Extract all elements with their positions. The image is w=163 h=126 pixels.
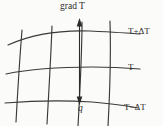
flux-line-2 <box>47 26 52 124</box>
isotherm-middle-curve <box>6 67 140 74</box>
isotherm-lower-label-text: T−ΔT <box>124 102 146 112</box>
isotherm-lower-curve <box>5 101 138 108</box>
isotherm-upper-label-text: T+ΔT <box>128 26 150 36</box>
grad-t-title: grad T <box>60 2 85 12</box>
isotherm-middle-label: T <box>128 63 134 72</box>
flux-line-4 <box>108 21 110 126</box>
flux-line-1 <box>16 30 22 122</box>
isotherm-middle-label-text: T <box>128 62 134 72</box>
flux-label: q <box>78 104 83 114</box>
flux-label-text: q <box>78 103 83 113</box>
isotherm-upper-curve <box>8 31 140 45</box>
thermal-gradient-figure: grad T T+ΔT T T−ΔT q <box>0 0 163 126</box>
isotherm-upper-label: T+ΔT <box>128 27 150 36</box>
isotherm-lower-label: T−ΔT <box>124 103 146 112</box>
grad-t-title-text: grad T <box>60 1 85 11</box>
